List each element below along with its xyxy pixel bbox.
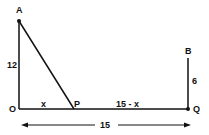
label-PQ-length: 15 - x	[116, 100, 139, 109]
label-A: A	[16, 6, 23, 15]
diagram-canvas	[0, 0, 209, 135]
label-BQ-length: 6	[192, 77, 197, 86]
segment-AP	[19, 21, 74, 109]
label-total-length: 15	[100, 121, 110, 130]
label-AO-length: 12	[7, 61, 17, 70]
arrow-right-icon	[184, 123, 191, 128]
label-OP-length: x	[41, 100, 46, 109]
label-Q: Q	[193, 105, 200, 114]
label-B: B	[185, 47, 192, 56]
label-P: P	[74, 100, 80, 109]
point-A	[17, 19, 21, 23]
label-O: O	[9, 105, 16, 114]
point-Q	[186, 107, 190, 111]
arrow-left-icon	[21, 123, 28, 128]
